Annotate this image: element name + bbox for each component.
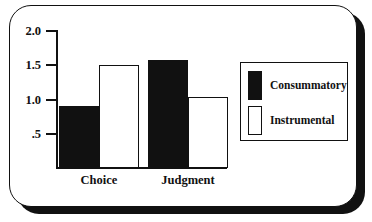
y-axis-tick-label: 2.0 [0, 25, 41, 38]
bar-choice-consummatory [59, 106, 99, 168]
y-axis-tick-label: 1.0 [0, 94, 41, 107]
y-axis-tick-label: 1.5 [0, 59, 41, 72]
hollow-square-icon [248, 106, 262, 135]
y-axis-tick [46, 133, 57, 135]
legend: Consummatory Instrumental [240, 62, 348, 141]
x-axis-label-judgment: Judgment [148, 174, 228, 187]
legend-label-instrumental: Instrumental [270, 115, 335, 127]
plot-area: 2.01.51.0.5 ChoiceJudgment Consummatory … [0, 0, 372, 222]
figure-root: 2.01.51.0.5 ChoiceJudgment Consummatory … [0, 0, 372, 222]
y-axis-tick [46, 99, 57, 101]
bar-judgment-consummatory [148, 60, 188, 168]
y-axis-tick [46, 64, 57, 66]
bar-judgment-instrumental [188, 97, 228, 168]
bar-choice-instrumental [99, 65, 139, 168]
y-axis-tick [46, 30, 57, 32]
x-axis-label-choice: Choice [59, 174, 139, 187]
y-axis-tick-label: .5 [0, 128, 41, 141]
filled-square-icon [248, 71, 262, 100]
legend-label-consummatory: Consummatory [270, 80, 347, 92]
